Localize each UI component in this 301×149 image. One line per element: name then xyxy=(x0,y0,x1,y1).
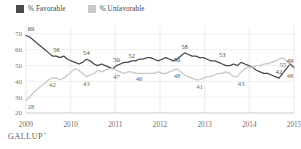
chart-plot-area: 2030405060702009201020112012201320142015… xyxy=(0,0,301,149)
gallup-favorability-chart: % Favorable % Unfavorable 20304050607020… xyxy=(0,0,301,149)
data-point-label: 69 xyxy=(28,25,35,32)
data-point-label: 49 xyxy=(287,57,294,64)
data-point-label: 58 xyxy=(181,43,188,50)
data-point-label: 55 xyxy=(279,61,286,68)
trademark-icon: ® xyxy=(43,131,47,136)
y-axis-tick-label: 40 xyxy=(15,78,23,86)
data-point-label: 43 xyxy=(238,80,245,87)
x-axis-tick-label: 2014 xyxy=(242,121,257,129)
data-point-label: 47 xyxy=(113,73,120,80)
y-axis-tick-label: 20 xyxy=(15,109,23,117)
data-point-label: 48 xyxy=(287,72,294,79)
y-axis-tick-label: 60 xyxy=(15,46,23,54)
y-axis-tick-label: 30 xyxy=(15,94,23,102)
y-axis-tick-label: 70 xyxy=(15,30,23,38)
data-point-label: 50 xyxy=(174,56,181,63)
data-point-label: 50 xyxy=(113,56,120,63)
gallup-brand: GALLUP® xyxy=(8,131,47,141)
x-axis-tick-label: 2012 xyxy=(153,121,168,129)
x-axis-tick-label: 2011 xyxy=(108,121,123,129)
data-point-label: 52 xyxy=(128,52,135,59)
data-point-label: 43 xyxy=(83,80,90,87)
data-point-label: 41 xyxy=(196,83,203,90)
data-point-label: 46 xyxy=(136,75,143,82)
data-point-label: 42 xyxy=(276,68,283,75)
x-axis-tick-label: 2013 xyxy=(197,121,212,129)
x-axis-tick-label: 2015 xyxy=(287,121,301,129)
x-axis-tick-label: 2010 xyxy=(63,121,78,129)
gallup-brand-text: GALLUP xyxy=(8,132,43,141)
data-point-label: 56 xyxy=(53,46,60,53)
y-axis-tick-label: 50 xyxy=(15,62,23,70)
data-point-label: 28 xyxy=(28,103,35,110)
data-point-label: 53 xyxy=(219,51,226,58)
data-point-label: 54 xyxy=(83,49,90,56)
data-point-label: 48 xyxy=(174,72,181,79)
x-axis-tick-label: 2009 xyxy=(19,121,34,129)
data-point-label: 42 xyxy=(49,81,56,88)
